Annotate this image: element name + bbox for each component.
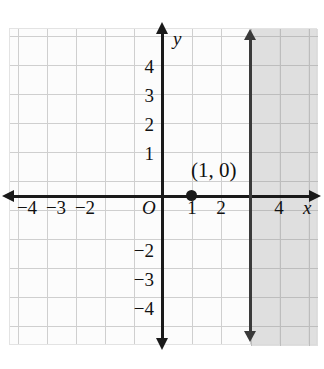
y-axis-up-arrow-icon <box>156 22 168 34</box>
x-tick-label-2: 2 <box>206 197 236 219</box>
x-tick-label--2: −2 <box>70 197 100 219</box>
x-tick-label--4: −4 <box>12 197 42 219</box>
y-axis-down-arrow-icon <box>156 338 168 350</box>
y-tick-label-3: 3 <box>128 85 154 107</box>
y-tick-label-2: 2 <box>128 114 154 136</box>
y-tick-label--2: −2 <box>120 240 154 262</box>
origin-label: O <box>142 197 156 219</box>
coordinate-plane-figure: (1, 0) y x O −4 −3 −2 1 2 4 4 3 2 1 −2 −… <box>0 0 324 369</box>
y-tick-label-4: 4 <box>128 56 154 78</box>
x-tick-label-1: 1 <box>177 197 207 219</box>
y-tick-label-1: 1 <box>128 143 154 165</box>
y-tick-label--4: −4 <box>120 298 154 320</box>
y-tick-label--3: −3 <box>120 269 154 291</box>
shaded-region-grid-lines <box>251 29 318 346</box>
boundary-line <box>249 38 252 333</box>
x-tick-label-4: 4 <box>264 197 294 219</box>
y-axis-name: y <box>173 28 181 50</box>
x-axis-name: x <box>303 197 311 219</box>
y-axis <box>161 30 164 341</box>
boundary-line-up-arrow-icon <box>244 29 256 40</box>
plotted-point-label: (1, 0) <box>191 158 237 183</box>
boundary-line-down-arrow-icon <box>244 331 256 342</box>
x-tick-label--3: −3 <box>41 197 71 219</box>
